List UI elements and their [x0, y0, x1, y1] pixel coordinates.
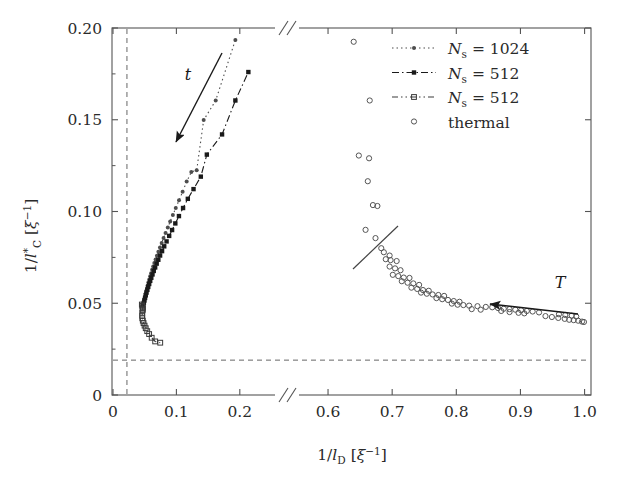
legend-entry-2: Ns = 512	[392, 89, 519, 109]
series-1	[141, 70, 250, 307]
T-annotation-label: T	[555, 273, 567, 292]
data-point	[398, 268, 403, 273]
legend-entry-1: Ns = 512	[392, 65, 519, 85]
data-point	[392, 266, 397, 271]
y-label-sup: −1	[21, 205, 33, 220]
annotation-T: T	[490, 273, 578, 314]
data-point	[166, 225, 170, 229]
data-point	[383, 257, 388, 262]
annotation-t: t	[176, 53, 222, 142]
data-point	[411, 119, 416, 124]
t-arrow	[176, 53, 222, 142]
x-axis-label: 1/lD [ξ−1]	[317, 445, 387, 466]
x-label-sup: −1	[365, 445, 380, 457]
data-point	[185, 180, 189, 184]
data-point	[156, 258, 160, 262]
y-tick-label: 0	[92, 387, 102, 405]
data-point	[412, 46, 416, 50]
data-point	[170, 228, 174, 232]
x-tick-label: 0.8	[444, 403, 469, 421]
legend-entry-0: Ns = 1024	[392, 40, 529, 60]
data-point	[513, 307, 518, 312]
data-point	[177, 198, 181, 202]
x-label-bracket-open: [	[346, 446, 357, 464]
data-point	[390, 272, 395, 277]
data-point	[381, 250, 386, 255]
x-tick-label: 0.9	[508, 403, 533, 421]
data-point	[233, 98, 237, 102]
data-point	[549, 314, 554, 319]
data-point	[363, 227, 368, 232]
data-point	[199, 174, 203, 178]
data-point	[543, 313, 548, 318]
x-label-bracket-close: ]	[381, 446, 387, 464]
data-point	[174, 206, 178, 210]
x-label-lead: 1/	[317, 446, 333, 464]
data-point	[412, 70, 416, 74]
data-point	[483, 304, 488, 309]
x-tick-label: 0.7	[380, 403, 405, 421]
data-point	[167, 234, 171, 238]
data-point	[478, 307, 483, 312]
data-point	[181, 190, 185, 194]
data-point	[158, 245, 162, 249]
data-point	[156, 250, 160, 254]
data-point	[195, 168, 199, 172]
x-label-sub: D	[337, 454, 345, 466]
x-tick-label: 0.1	[164, 403, 189, 421]
data-point	[365, 179, 370, 184]
data-point	[387, 264, 392, 269]
x-tick-label: 0	[108, 403, 118, 421]
data-point	[164, 239, 168, 243]
data-point	[168, 219, 172, 223]
data-point	[162, 244, 166, 248]
y-axis-label: 1/l*C [ξ−1]	[21, 199, 43, 273]
data-point	[154, 261, 158, 265]
data-point	[191, 187, 195, 191]
svg-text:1/lD [ξ−1]: 1/lD [ξ−1]	[317, 445, 387, 466]
y-label-lead: 1/	[22, 257, 40, 273]
series-line	[143, 72, 248, 305]
y-tick-label: 0.05	[67, 295, 102, 313]
y-label-sub: C	[31, 240, 43, 248]
data-point	[202, 118, 206, 122]
x-tick-label: 0.6	[316, 403, 341, 421]
legend-label: thermal	[448, 114, 510, 132]
data-point	[214, 98, 218, 102]
axis-break-marks	[275, 21, 299, 402]
data-point	[461, 302, 466, 307]
data-point	[164, 231, 168, 235]
data-point	[356, 153, 361, 158]
data-point	[394, 258, 399, 263]
scatter-plot: 00.10.20.60.70.80.91.000.050.100.150.20 …	[0, 0, 624, 494]
figure-container: 00.10.20.60.70.80.91.000.050.100.150.20 …	[0, 0, 624, 494]
data-point	[246, 70, 250, 74]
data-point	[405, 280, 410, 285]
data-point	[186, 197, 190, 201]
y-tick-label: 0.10	[67, 203, 102, 221]
svg-text:1/l*C [ξ−1]: 1/l*C [ξ−1]	[21, 199, 43, 273]
y-label-bracket-open: [	[22, 229, 40, 240]
data-point	[205, 152, 209, 156]
data-point	[189, 170, 193, 174]
data-point	[366, 156, 371, 161]
data-point	[233, 38, 237, 42]
y-tick-label: 0.15	[67, 111, 102, 129]
data-point	[490, 305, 495, 310]
data-point	[153, 265, 157, 269]
y-tick-label: 0.20	[67, 20, 102, 38]
legend-label: Ns = 1024	[447, 40, 529, 60]
data-point	[158, 253, 162, 257]
data-point	[396, 273, 401, 278]
data-point	[367, 98, 372, 103]
data-point	[177, 214, 181, 218]
data-point	[495, 305, 500, 310]
y-label-bracket-close: ]	[22, 199, 40, 205]
legend-label: Ns = 512	[447, 89, 519, 109]
legend-label: Ns = 512	[447, 65, 519, 85]
data-point	[536, 310, 541, 315]
legend-entry-3: thermal	[411, 114, 509, 132]
data-point	[373, 236, 378, 241]
series-2	[139, 302, 162, 345]
legend: Ns = 1024Ns = 512Ns = 512thermal	[392, 40, 529, 132]
